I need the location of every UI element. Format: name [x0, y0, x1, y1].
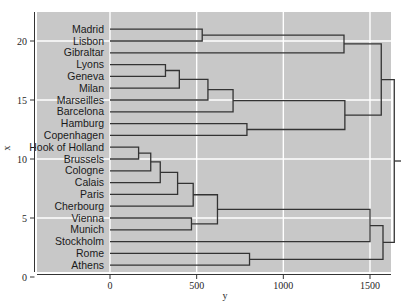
leaf-label: Lyons — [76, 58, 104, 70]
dendrogram-figure: MadridLisbonGibraltarLyonsGenevaMilanMar… — [0, 0, 401, 307]
x-axis-tick-label: 1000 — [273, 280, 293, 291]
leaf-label: Munich — [70, 223, 104, 235]
leaf-label: Milan — [79, 82, 104, 94]
leaf-label: Gibraltar — [64, 46, 105, 58]
x-axis-title: y — [223, 290, 228, 301]
leaf-label: Madrid — [72, 23, 104, 35]
leaf-label: Hook of Holland — [29, 141, 104, 153]
x-axis-tick-label: 0 — [108, 280, 113, 291]
y-axis-title: x — [1, 146, 12, 151]
leaf-label: Vienna — [71, 212, 104, 224]
leaf-label: Marseilles — [57, 94, 104, 106]
leaf-label: Lisbon — [73, 35, 104, 47]
leaf-label: Brussels — [64, 153, 104, 165]
leaf-label: Geneva — [67, 70, 104, 82]
leaf-label: Calais — [75, 176, 104, 188]
leaf-label: Barcelona — [57, 105, 104, 117]
y-axis-tick-label: 5 — [22, 213, 27, 224]
leaf-label: Hamburg — [61, 117, 104, 129]
leaf-label: Athens — [71, 259, 104, 271]
y-axis-tick-label: 20 — [17, 36, 27, 47]
y-axis-tick-label: 0 — [22, 272, 27, 283]
y-axis-tick-label: 15 — [17, 95, 27, 106]
y-axis-tick-label: 10 — [17, 154, 27, 165]
leaf-label: Stockholm — [55, 235, 104, 247]
x-axis: 050010001500 — [37, 275, 391, 292]
leaf-label: Copenhagen — [44, 129, 104, 141]
x-axis-tick-label: 500 — [189, 280, 204, 291]
dendrogram-plot: MadridLisbonGibraltarLyonsGenevaMilanMar… — [0, 0, 401, 307]
x-axis-tick-label: 1500 — [360, 280, 380, 291]
leaf-label: Paris — [80, 188, 104, 200]
leaf-label: Cherbourg — [54, 200, 104, 212]
leaf-label: Cologne — [65, 164, 104, 176]
leaf-label: Rome — [76, 247, 104, 259]
